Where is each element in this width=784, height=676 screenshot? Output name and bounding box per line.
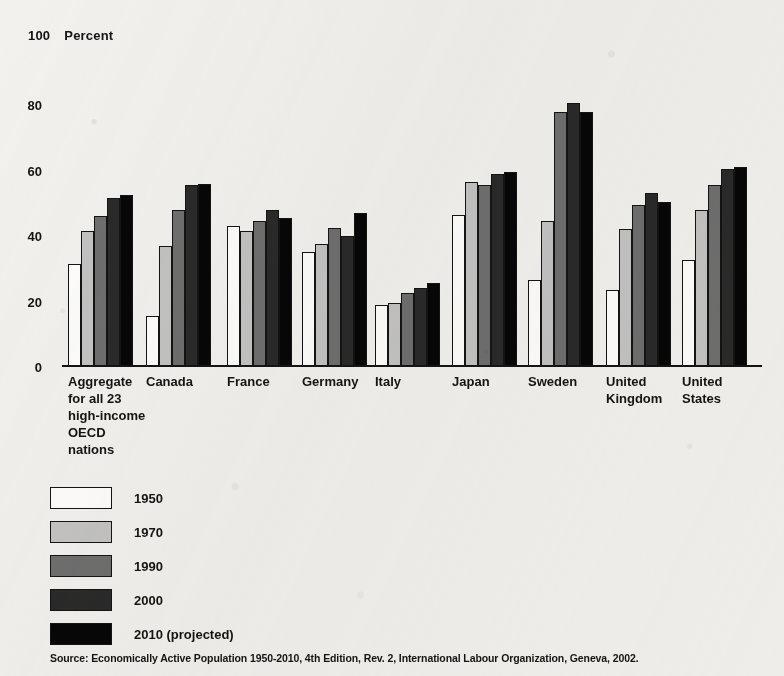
legend-item: 2010 (projected) bbox=[50, 620, 234, 648]
bar-group bbox=[606, 38, 671, 365]
y-axis-tick-labels: 020406080 bbox=[0, 40, 52, 367]
bar-1990-canada bbox=[172, 210, 185, 365]
bar-2000-united bbox=[721, 169, 734, 365]
legend-swatch-2010 bbox=[50, 623, 112, 645]
bar-1990-sweden bbox=[554, 112, 567, 365]
bar-1990-germany bbox=[328, 228, 341, 365]
legend: 19501970199020002010 (projected) bbox=[50, 484, 234, 654]
bar-group bbox=[302, 38, 367, 365]
bar-1970-sweden bbox=[541, 221, 554, 365]
legend-label-1990: 1990 bbox=[134, 559, 163, 574]
bar-2010-united bbox=[734, 167, 747, 365]
legend-swatch-1950 bbox=[50, 487, 112, 509]
bar-1950-italy bbox=[375, 305, 388, 365]
y-axis-tick-20: 20 bbox=[28, 294, 42, 309]
bar-1950-germany bbox=[302, 252, 315, 365]
bar-1970-aggregate bbox=[81, 231, 94, 365]
bar-2010-canada bbox=[198, 184, 211, 365]
x-axis-label-germany: Germany bbox=[302, 373, 358, 390]
bar-group bbox=[68, 38, 133, 365]
legend-label-1970: 1970 bbox=[134, 525, 163, 540]
legend-swatch-2000 bbox=[50, 589, 112, 611]
bar-1950-aggregate bbox=[68, 264, 81, 365]
bar-1950-canada bbox=[146, 316, 159, 365]
bar-1950-japan bbox=[452, 215, 465, 365]
bar-1970-italy bbox=[388, 303, 401, 365]
legend-swatch-1990 bbox=[50, 555, 112, 577]
x-axis-label-aggregate: Aggregate for all 23 high-income OECD na… bbox=[68, 373, 145, 458]
x-axis-line bbox=[62, 365, 762, 367]
bar-1970-united bbox=[619, 229, 632, 365]
bar-2000-aggregate bbox=[107, 198, 120, 365]
bar-2010-sweden bbox=[580, 112, 593, 365]
bar-1950-france bbox=[227, 226, 240, 365]
bar-1950-united bbox=[606, 290, 619, 365]
x-axis-label-united: United States bbox=[682, 373, 722, 407]
x-axis-label-italy: Italy bbox=[375, 373, 401, 390]
x-axis-label-japan: Japan bbox=[452, 373, 490, 390]
bar-2000-germany bbox=[341, 236, 354, 365]
bar-2000-italy bbox=[414, 288, 427, 365]
bar-2010-italy bbox=[427, 283, 440, 365]
bar-1950-united bbox=[682, 260, 695, 365]
bar-1970-france bbox=[240, 231, 253, 365]
source-note: Source: Economically Active Population 1… bbox=[50, 652, 639, 664]
bar-group bbox=[227, 38, 292, 365]
legend-item: 1990 bbox=[50, 552, 234, 580]
bar-group bbox=[682, 38, 747, 365]
legend-label-2000: 2000 bbox=[134, 593, 163, 608]
bar-2010-united bbox=[658, 202, 671, 366]
bar-1990-italy bbox=[401, 293, 414, 365]
bar-1990-aggregate bbox=[94, 216, 107, 365]
bar-2000-japan bbox=[491, 174, 504, 365]
bar-2010-japan bbox=[504, 172, 517, 365]
y-axis-tick-60: 60 bbox=[28, 163, 42, 178]
bar-2010-france bbox=[279, 218, 292, 365]
x-axis-label-united: United Kingdom bbox=[606, 373, 662, 407]
bar-1970-japan bbox=[465, 182, 478, 365]
x-axis-label-sweden: Sweden bbox=[528, 373, 577, 390]
x-axis-label-france: France bbox=[227, 373, 270, 390]
legend-item: 1970 bbox=[50, 518, 234, 546]
x-axis-label-canada: Canada bbox=[146, 373, 193, 390]
bar-1990-japan bbox=[478, 185, 491, 365]
bar-group bbox=[452, 38, 517, 365]
bar-2000-sweden bbox=[567, 103, 580, 365]
bar-group bbox=[146, 38, 211, 365]
legend-item: 2000 bbox=[50, 586, 234, 614]
bar-2010-aggregate bbox=[120, 195, 133, 365]
bar-2000-canada bbox=[185, 185, 198, 365]
bar-group bbox=[528, 38, 593, 365]
bar-2000-united bbox=[645, 193, 658, 365]
y-axis-tick-40: 40 bbox=[28, 229, 42, 244]
bar-1990-france bbox=[253, 221, 266, 365]
bar-2000-france bbox=[266, 210, 279, 365]
bar-1970-germany bbox=[315, 244, 328, 365]
legend-label-2010: 2010 (projected) bbox=[134, 627, 234, 642]
plot-area bbox=[62, 40, 762, 367]
bar-1990-united bbox=[708, 185, 721, 365]
legend-item: 1950 bbox=[50, 484, 234, 512]
y-axis-tick-80: 80 bbox=[28, 98, 42, 113]
x-axis-category-labels: Aggregate for all 23 high-income OECD na… bbox=[62, 373, 762, 468]
bar-1950-sweden bbox=[528, 280, 541, 365]
bar-1990-united bbox=[632, 205, 645, 365]
y-axis-tick-0: 0 bbox=[35, 360, 42, 375]
bar-1970-united bbox=[695, 210, 708, 365]
bar-1970-canada bbox=[159, 246, 172, 365]
bar-2010-germany bbox=[354, 213, 367, 365]
bar-group bbox=[375, 38, 440, 365]
legend-swatch-1970 bbox=[50, 521, 112, 543]
legend-label-1950: 1950 bbox=[134, 491, 163, 506]
